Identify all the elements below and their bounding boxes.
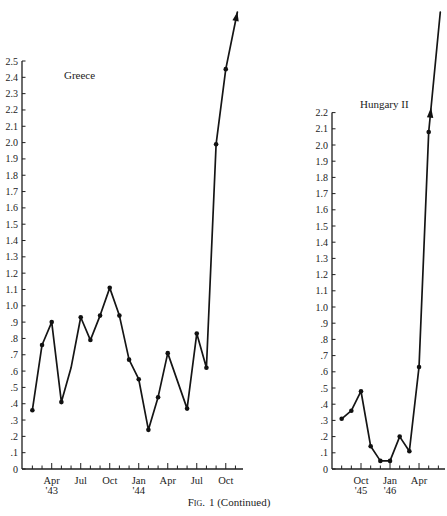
- y-tick-label: .2: [321, 431, 329, 442]
- y-tick-label: 2.1: [6, 121, 19, 132]
- y-tick-label: 2.0: [6, 137, 19, 148]
- y-tick-label: .7: [321, 350, 329, 361]
- data-point: [49, 320, 54, 325]
- y-tick-label: 1.1: [6, 284, 19, 295]
- y-tick-label: 0: [13, 464, 18, 475]
- data-point: [59, 400, 64, 405]
- data-point: [204, 366, 209, 371]
- y-tick-label: .1: [11, 447, 19, 458]
- y-tick-label: 1.0: [6, 300, 19, 311]
- y-tick-label: .4: [321, 399, 329, 410]
- data-point: [397, 434, 402, 439]
- y-tick-label: .3: [321, 415, 329, 426]
- y-tick-label: 1.1: [316, 285, 329, 296]
- chart-hungary-ii: Hungary II 0.1.2.3.4.5.6.7.8.91.01.11.21…: [316, 12, 446, 496]
- y-tick-label: 1.3: [6, 251, 19, 262]
- caption-label: Fig.: [188, 496, 206, 508]
- x-tick-label: Apr: [160, 475, 177, 486]
- y-tick-label: .3: [11, 415, 19, 426]
- y-tick-label: 1.2: [6, 268, 19, 279]
- chart-greece: Greece 0.1.2.3.4.5.6.7.8.91.01.11.21.31.…: [6, 12, 244, 496]
- y-tick-label: .5: [11, 382, 19, 393]
- chart-title: Hungary II: [360, 98, 409, 110]
- x-tick-label: Jul: [191, 475, 203, 486]
- y-tick-label: 2.5: [6, 56, 19, 67]
- data-point: [127, 357, 132, 362]
- data-point: [378, 459, 383, 464]
- data-point: [146, 428, 151, 433]
- data-point: [156, 395, 161, 400]
- x-tick-label: Jul: [75, 475, 87, 486]
- figure: Greece 0.1.2.3.4.5.6.7.8.91.01.11.21.31.…: [0, 0, 447, 516]
- x-tick-year-label: '44: [133, 485, 146, 496]
- y-tick-label: .9: [11, 317, 19, 328]
- data-point: [417, 365, 422, 370]
- figure-caption: Fig.1 (Continued): [188, 496, 271, 509]
- y-tick-label: .7: [11, 349, 19, 360]
- y-tick-label: .2: [11, 431, 19, 442]
- y-tick-label: .6: [11, 366, 19, 377]
- x-tick-label: Apr: [411, 475, 428, 486]
- data-point: [78, 315, 83, 320]
- data-point: [339, 416, 344, 421]
- y-tick-label: 1.9: [316, 156, 329, 167]
- x-tick-label: Oct: [102, 475, 117, 486]
- y-tick-label: 1.3: [316, 253, 329, 264]
- y-tick-label: 1.2: [316, 269, 329, 280]
- data-point: [359, 389, 364, 394]
- y-tick-label: 2.0: [316, 140, 329, 151]
- data-point: [30, 408, 35, 413]
- data-point: [194, 331, 199, 336]
- y-tick-label: 1.4: [6, 235, 19, 246]
- x-tick-label: Oct: [218, 475, 233, 486]
- y-tick-label: .4: [11, 398, 19, 409]
- data-point: [388, 459, 393, 464]
- data-point: [407, 449, 412, 454]
- data-point: [98, 313, 103, 318]
- data-point: [223, 67, 228, 72]
- data-point: [214, 142, 219, 147]
- y-tick-label: .6: [321, 366, 329, 377]
- data-point: [349, 408, 354, 413]
- data-point: [40, 343, 45, 348]
- data-line: [342, 12, 441, 461]
- x-tick-year-label: '46: [384, 485, 396, 496]
- data-point: [185, 406, 190, 411]
- y-tick-label: 1.7: [316, 188, 329, 199]
- y-tick-label: .1: [321, 447, 329, 458]
- y-tick-label: .9: [321, 318, 329, 329]
- y-tick-label: 1.8: [316, 172, 329, 183]
- data-point: [88, 338, 93, 343]
- data-point: [165, 351, 170, 356]
- data-point: [136, 377, 141, 382]
- y-tick-label: 2.2: [6, 104, 19, 115]
- y-tick-label: 1.8: [6, 170, 19, 181]
- y-tick-label: 0: [323, 464, 328, 475]
- y-tick-label: 2.4: [6, 72, 19, 83]
- y-tick-label: 2.1: [316, 123, 329, 134]
- y-tick-label: 1.5: [6, 219, 19, 230]
- y-tick-label: .5: [321, 383, 329, 394]
- y-tick-label: .8: [11, 333, 19, 344]
- x-tick-year-label: '43: [46, 485, 58, 496]
- chart-title: Greece: [64, 69, 95, 81]
- y-tick-label: 1.9: [6, 153, 19, 164]
- caption-text: 1 (Continued): [209, 496, 271, 509]
- y-tick-label: 2.3: [6, 88, 19, 99]
- x-tick-year-label: '45: [355, 485, 367, 496]
- y-tick-label: 1.4: [316, 237, 329, 248]
- y-tick-label: 1.6: [316, 204, 329, 215]
- y-tick-label: 1.7: [6, 186, 19, 197]
- y-tick-label: 1.6: [6, 202, 19, 213]
- data-point: [117, 313, 122, 318]
- y-tick-label: 2.2: [316, 107, 329, 118]
- y-tick-label: 1.5: [316, 221, 329, 232]
- data-point: [426, 130, 431, 135]
- y-tick-label: .8: [321, 334, 329, 345]
- y-tick-label: 1.0: [316, 302, 329, 313]
- data-point: [368, 444, 373, 449]
- data-point: [107, 286, 112, 291]
